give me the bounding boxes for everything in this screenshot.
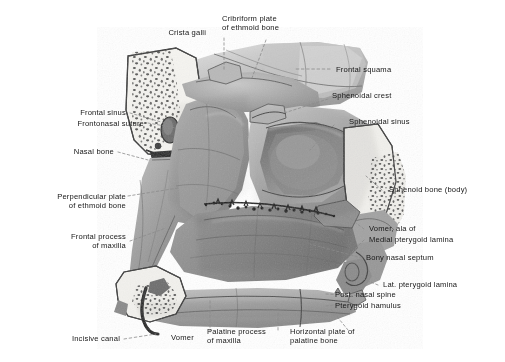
label-vomer: Vomer [171, 333, 211, 342]
label-bony-nasal-septum: Bony nasal septum [366, 253, 486, 262]
label-lat-pterygoid-lamina: Lat. pterygoid lamina [383, 280, 505, 289]
label-pterygoid-hamulus: Pterygoid hamulus [335, 301, 445, 310]
label-nasal-bone: Nasal bone [42, 147, 114, 156]
anatomical-figure: Crista galli Cribriform plate of ethmoid… [0, 0, 505, 362]
label-cribriform-plate: Cribriform plate of ethmoid bone [222, 14, 308, 33]
label-perpendicular-plate: Perpendicular plate of ethmoid bone [14, 192, 126, 211]
label-sphenoidal-crest: Sphenoidal crest [332, 91, 442, 100]
label-sphenoidal-sinus: Sphenoidal sinus [349, 117, 461, 126]
label-frontal-process-maxilla: Frontal process of maxilla [30, 232, 126, 251]
label-incisive-canal: Incisive canal [40, 334, 120, 343]
label-crista-galli: Crista galli [138, 28, 206, 37]
label-frontal-sinus: Frontal sinus [36, 108, 126, 117]
label-horizontal-plate: Horizontal plate of palatine bone [290, 327, 394, 346]
label-medial-pterygoid-lamina: Medial pterygoid lamina [369, 235, 505, 244]
label-frontonasal-suture: Frontonasal suture [22, 119, 144, 128]
label-sphenoid-bone-body: Sphenoid bone (body) [389, 185, 505, 194]
label-frontal-squama: Frontal squama [336, 65, 436, 74]
label-post-nasal-spine: Post. nasal spine [335, 290, 439, 299]
label-vomer-ala-of: Vomer, ala of [369, 224, 479, 233]
label-palatine-process: Palatine process of maxilla [207, 327, 287, 346]
